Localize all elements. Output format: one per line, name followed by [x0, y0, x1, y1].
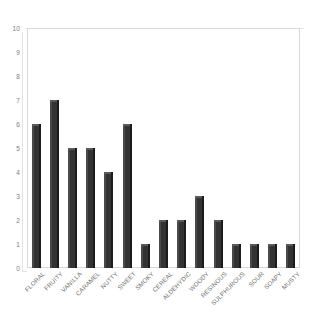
bar-top-highlight [232, 244, 241, 246]
y-axis-tick-label: 1 [16, 241, 20, 248]
bar-slot [195, 28, 204, 268]
bar-top-highlight [214, 220, 223, 222]
bar-top-highlight [141, 244, 150, 246]
bar-slot [232, 28, 241, 268]
x-axis: FLORALFRUITYVANILLACARAMELNUTTYSWEETSMOK… [27, 268, 300, 333]
bar-series [27, 28, 300, 268]
y-axis-tick-label: 6 [16, 121, 20, 128]
bar-top-highlight [50, 100, 59, 102]
y-axis-tick-label: 4 [16, 169, 20, 176]
bar-slot [123, 28, 132, 268]
bar-top-highlight [250, 244, 259, 246]
bar-sweet [123, 124, 132, 268]
bar-slot [104, 28, 113, 268]
bar-chart-figure: 109876543210 FLORALFRUITYVANILLACARAMELN… [0, 0, 325, 333]
bar-slot [250, 28, 259, 268]
bar-slot [214, 28, 223, 268]
bar-vanilla [68, 148, 77, 268]
bar-slot [86, 28, 95, 268]
y-axis-tick-label: 2 [16, 217, 20, 224]
bar-top-highlight [159, 220, 168, 222]
y-axis-tick-label: 0 [16, 265, 20, 272]
y-axis-tick-label: 8 [16, 73, 20, 80]
bar-top-highlight [32, 124, 41, 126]
bar-slot [68, 28, 77, 268]
bar-fruity [50, 100, 59, 268]
bar-top-highlight [68, 148, 77, 150]
y-axis: 109876543210 [0, 28, 25, 268]
bar-slot [32, 28, 41, 268]
bar-top-highlight [177, 220, 186, 222]
bar-top-highlight [195, 196, 204, 198]
bar-slot [50, 28, 59, 268]
bar-top-highlight [123, 124, 132, 126]
bar-slot [286, 28, 295, 268]
bar-slot [159, 28, 168, 268]
bar-slot [177, 28, 186, 268]
y-axis-tick-label: 3 [16, 193, 20, 200]
bar-slot [141, 28, 150, 268]
y-axis-tick-label: 5 [16, 145, 20, 152]
y-axis-tick-label: 9 [16, 49, 20, 56]
bar-top-highlight [104, 172, 113, 174]
bar-top-highlight [286, 244, 295, 246]
y-axis-tick-label: 10 [13, 25, 20, 32]
y-axis-tick-label: 7 [16, 97, 20, 104]
bar-floral [32, 124, 41, 268]
bar-caramel [86, 148, 95, 268]
bar-top-highlight [86, 148, 95, 150]
bar-slot [268, 28, 277, 268]
